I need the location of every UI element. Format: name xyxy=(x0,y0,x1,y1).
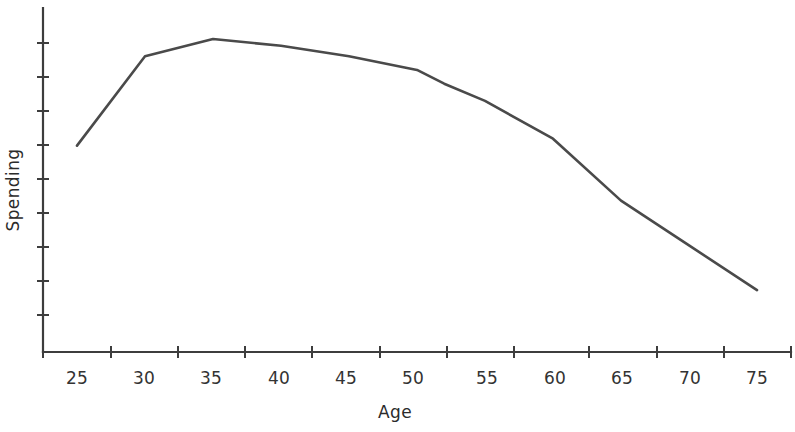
x-tick-label: 75 xyxy=(746,368,768,388)
line-chart: 25 30 35 40 45 50 55 60 65 70 75 Age Spe… xyxy=(0,0,795,432)
x-axis-title: Age xyxy=(378,402,412,422)
x-tick-label: 55 xyxy=(476,368,498,388)
x-tick-label: 50 xyxy=(402,368,424,388)
x-tick-label: 70 xyxy=(679,368,701,388)
x-tick-label: 25 xyxy=(66,368,88,388)
x-tick-label: 45 xyxy=(335,368,357,388)
x-tick-label: 40 xyxy=(268,368,290,388)
x-tick-label: 30 xyxy=(133,368,155,388)
x-tick-label: 35 xyxy=(200,368,222,388)
x-tick-label: 65 xyxy=(611,368,633,388)
x-tick-label: 60 xyxy=(544,368,566,388)
chart-canvas: 25 30 35 40 45 50 55 60 65 70 75 Age Spe… xyxy=(0,0,795,432)
y-axis-title: Spending xyxy=(3,148,23,231)
